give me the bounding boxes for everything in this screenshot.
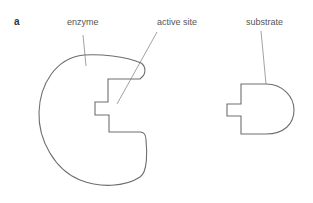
substrate-leader-line	[261, 31, 266, 84]
enzyme-shape	[39, 55, 147, 186]
active-site-leader-line	[117, 32, 157, 104]
enzyme-leader-line	[83, 35, 86, 66]
enzyme-substrate-diagram	[0, 0, 313, 203]
substrate-shape	[227, 84, 294, 134]
